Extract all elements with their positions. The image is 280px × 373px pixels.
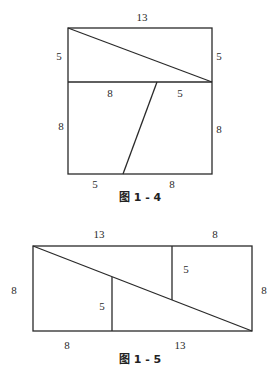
label-bottom-right: 8 bbox=[169, 179, 175, 190]
label-right-lower: 8 bbox=[216, 124, 222, 135]
label-top-right: 8 bbox=[212, 229, 218, 240]
label-right: 8 bbox=[261, 285, 267, 296]
label-bottom-left: 8 bbox=[64, 340, 70, 351]
label-left: 8 bbox=[11, 285, 17, 296]
label-inner-upper: 5 bbox=[183, 264, 189, 275]
label-mid-right: 5 bbox=[177, 88, 183, 99]
label-left-lower: 8 bbox=[58, 121, 64, 132]
figure-1-4-shapes bbox=[68, 28, 212, 174]
upper-diagonal bbox=[68, 28, 212, 82]
square-outline bbox=[68, 28, 212, 174]
label-mid-left: 8 bbox=[107, 88, 113, 99]
figure-1-5-shapes bbox=[33, 246, 252, 331]
diagram-canvas bbox=[0, 0, 280, 373]
label-left-upper: 5 bbox=[56, 51, 62, 62]
label-inner-lower: 5 bbox=[99, 301, 105, 312]
figure-caption: 图 1 - 4 bbox=[119, 192, 161, 203]
trapezoid-cut bbox=[123, 82, 157, 174]
figure-caption: 图 1 - 5 bbox=[119, 354, 161, 365]
label-top-left: 13 bbox=[94, 229, 105, 240]
label-right-upper: 5 bbox=[216, 51, 222, 62]
label-top: 13 bbox=[137, 12, 148, 23]
label-bottom-left: 5 bbox=[92, 179, 98, 190]
label-bottom-right: 13 bbox=[175, 340, 186, 351]
main-diagonal bbox=[33, 246, 252, 331]
